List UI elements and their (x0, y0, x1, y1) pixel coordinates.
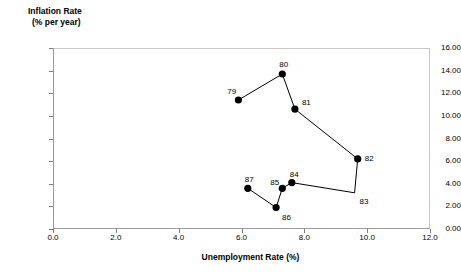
y-tick-label: 16.00 (417, 44, 461, 52)
data-point-label: 87 (245, 176, 254, 184)
y-tick-label: 10.00 (417, 112, 461, 120)
x-tick-label: 2.0 (96, 234, 136, 242)
x-tick-mark (430, 229, 431, 233)
y-tick-mark (49, 93, 53, 94)
y-tick-label: 12.00 (417, 89, 461, 97)
y-tick-label: 6.00 (417, 157, 461, 165)
y-tick-mark (49, 184, 53, 185)
x-tick-label: 8.0 (284, 234, 324, 242)
x-tick-label: 0.0 (33, 234, 73, 242)
x-tick-label: 6.0 (222, 234, 262, 242)
x-tick-mark (242, 229, 243, 233)
x-tick-mark (179, 229, 180, 233)
y-tick-label: 8.00 (417, 135, 461, 143)
y-tick-label: 4.00 (417, 180, 461, 188)
x-axis-title: Unemployment Rate (%) (0, 252, 461, 262)
data-point-label: 85 (270, 179, 279, 187)
x-tick-label: 12.0 (410, 234, 450, 242)
data-point-label: 79 (227, 88, 236, 96)
y-tick-mark (49, 206, 53, 207)
x-tick-label: 4.0 (159, 234, 199, 242)
data-point-label: 81 (302, 99, 311, 107)
data-point-label: 80 (279, 61, 288, 69)
data-point-label: 86 (282, 214, 291, 222)
y-tick-mark (49, 139, 53, 140)
y-axis-title-line2: (% per year) (28, 17, 82, 28)
x-tick-mark (304, 229, 305, 233)
x-tick-mark (116, 229, 117, 233)
phillips-curve-chart: Inflation Rate (% per year) 0.002.004.00… (0, 0, 461, 274)
x-tick-mark (53, 229, 54, 233)
y-tick-label: 14.00 (417, 67, 461, 75)
y-tick-mark (49, 161, 53, 162)
data-point-label: 83 (360, 198, 369, 206)
data-point-label: 82 (365, 155, 374, 163)
plot-area (53, 48, 430, 229)
y-tick-mark (49, 71, 53, 72)
data-point-label: 84 (290, 171, 299, 179)
y-tick-mark (49, 48, 53, 49)
y-axis-title-line1: Inflation Rate (28, 6, 82, 17)
y-axis-title: Inflation Rate (% per year) (28, 6, 82, 28)
y-tick-label: 2.00 (417, 202, 461, 210)
x-tick-mark (367, 229, 368, 233)
x-tick-label: 10.0 (347, 234, 387, 242)
y-tick-label: 0.00 (417, 225, 461, 233)
y-tick-mark (49, 116, 53, 117)
